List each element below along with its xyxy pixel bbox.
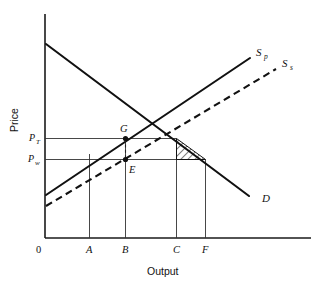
price-tick-pw-sub: w xyxy=(35,159,40,167)
curve-label-sp-sub: p xyxy=(263,52,268,61)
diagram-canvas: S p S s D G E P T P w A B C F 0 Price xyxy=(0,0,325,284)
price-tick-pw-base: P xyxy=(27,153,34,164)
point-label-g: G xyxy=(120,123,128,134)
supply-demand-figure: S p S s D G E P T P w A B C F 0 Price xyxy=(0,0,325,284)
curve-label-ss-sub: s xyxy=(290,63,293,72)
deadweight-loss-triangle xyxy=(177,139,206,160)
output-tick-a: A xyxy=(85,244,93,255)
curve-label-d: D xyxy=(261,192,270,204)
axes xyxy=(45,14,311,238)
output-tick-b: B xyxy=(122,244,129,255)
demand-curve-group xyxy=(46,44,249,196)
point-g-marker xyxy=(123,136,128,141)
price-tick-labels: P T P w xyxy=(27,132,41,167)
hatched-triangle xyxy=(177,139,206,160)
y-axis-title: Price xyxy=(8,108,20,132)
point-label-e: E xyxy=(128,164,136,175)
point-labels: G E xyxy=(120,123,136,175)
origin-label: 0 xyxy=(36,244,41,255)
supply-curve-ss-group xyxy=(46,69,276,206)
x-axis-title: Output xyxy=(147,265,179,277)
point-e-marker xyxy=(123,157,128,162)
price-tick-pt-sub: T xyxy=(36,138,41,146)
output-tick-c: C xyxy=(173,244,181,255)
output-tick-labels: A B C F xyxy=(85,244,209,255)
demand-curve xyxy=(46,44,249,196)
curve-label-ss-base: S xyxy=(282,57,288,69)
curve-label-sp-base: S xyxy=(256,46,262,58)
supply-curve-ss xyxy=(46,69,276,206)
output-tick-f: F xyxy=(201,244,209,255)
price-tick-pt-base: P xyxy=(28,132,35,143)
